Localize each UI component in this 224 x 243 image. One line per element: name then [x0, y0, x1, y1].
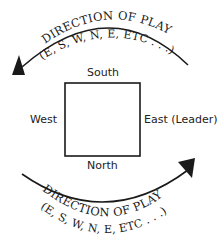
seat-east-label: East (Leader) [144, 113, 218, 126]
seat-west-label: West [30, 113, 57, 126]
table-square [65, 83, 140, 156]
top-arrow-head-icon [12, 55, 25, 75]
seat-south-label: South [87, 66, 119, 79]
seat-north-label: North [87, 159, 118, 172]
